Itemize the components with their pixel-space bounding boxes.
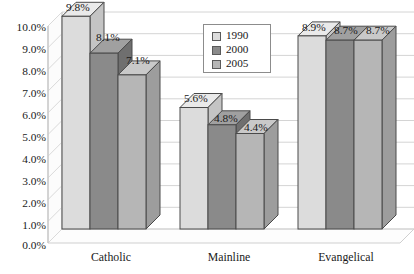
bar-value-label: 8.1% <box>96 32 120 43</box>
bar-value-label: 5.6% <box>184 93 208 104</box>
legend-item-2000: 2000 <box>212 43 270 57</box>
bar-value-label: 8.7% <box>366 25 390 36</box>
bar-value-label: 7.1% <box>126 55 150 66</box>
x-axis-label-mainline: Mainline <box>180 252 278 264</box>
legend-label: 2000 <box>226 44 248 55</box>
bar-value-label: 9.8% <box>66 2 90 13</box>
legend-swatch-icon <box>212 60 221 69</box>
legend-swatch-icon <box>212 46 221 55</box>
bar-value-label: 4.4% <box>244 122 268 133</box>
legend-item-1990: 1990 <box>212 29 270 43</box>
legend-swatch-icon <box>212 32 221 41</box>
bar-value-label: 4.8% <box>214 113 238 124</box>
x-axis-label-catholic: Catholic <box>62 252 160 264</box>
legend-label: 2005 <box>226 58 248 69</box>
bar-value-label: 8.7% <box>334 25 358 36</box>
bar-chart: 10.0% 9.0% 8.0% 7.0% 6.0% 5.0% 4.0% 3.0%… <box>0 0 414 274</box>
legend-item-2005: 2005 <box>212 57 270 71</box>
legend-label: 1990 <box>226 30 248 41</box>
legend: 1990 2000 2005 <box>203 24 271 73</box>
x-axis-label-evangelical: Evangelical <box>296 252 396 264</box>
bar-value-label: 8.9% <box>302 22 326 33</box>
